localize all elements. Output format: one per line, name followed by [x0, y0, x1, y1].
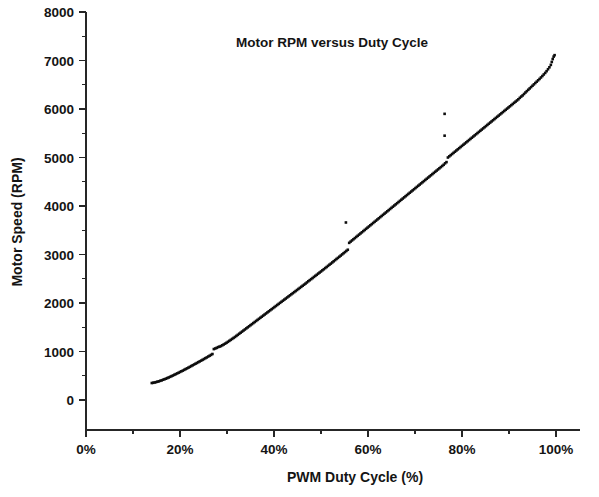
data-point — [443, 113, 446, 116]
data-point — [553, 54, 556, 57]
y-tick-label: 3000 — [44, 248, 74, 263]
y-tick-label: 0 — [66, 393, 74, 408]
y-tick-label: 7000 — [44, 54, 74, 69]
data-point — [551, 58, 554, 61]
data-point — [345, 221, 348, 224]
data-point — [548, 66, 551, 69]
y-axis-title: Motor Speed (RPM) — [9, 157, 25, 286]
data-point — [550, 61, 553, 64]
x-tick-label: 40% — [260, 442, 287, 457]
x-tick-label: 100% — [539, 442, 574, 457]
x-tick-label: 80% — [448, 442, 475, 457]
y-tick-label: 8000 — [44, 5, 74, 20]
x-axis-title: PWM Duty Cycle (%) — [287, 469, 423, 485]
chart-title: Motor RPM versus Duty Cycle — [236, 35, 429, 50]
x-tick-label: 60% — [354, 442, 381, 457]
data-point — [443, 134, 446, 137]
chart-container: 0100020003000400050006000700080000%20%40… — [0, 0, 599, 497]
data-series-outliers — [345, 113, 446, 224]
data-series-main — [151, 54, 556, 384]
data-point — [550, 64, 553, 67]
data-point — [445, 161, 448, 164]
y-tick-label: 2000 — [44, 296, 74, 311]
data-point — [211, 353, 214, 356]
scatter-chart: 0100020003000400050006000700080000%20%40… — [0, 0, 599, 497]
x-tick-label: 20% — [166, 442, 193, 457]
x-tick-label: 0% — [76, 442, 96, 457]
y-tick-label: 6000 — [44, 102, 74, 117]
y-tick-label: 4000 — [44, 199, 74, 214]
y-tick-label: 5000 — [44, 151, 74, 166]
data-point — [346, 248, 349, 251]
y-tick-label: 1000 — [44, 345, 74, 360]
